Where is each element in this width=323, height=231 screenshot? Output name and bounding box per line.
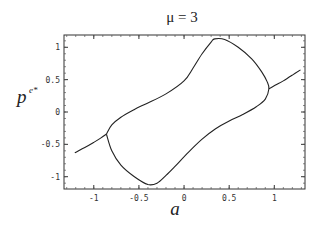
minor-ticks [64, 35, 305, 189]
data-series [75, 39, 301, 185]
y-tick-label: 0.5 [46, 76, 61, 85]
x-axis-ticks: -1-0.500.51 [89, 35, 277, 203]
y-tick-label: -1 [50, 173, 60, 182]
series-right-branch [269, 70, 301, 89]
x-tick-label: 0.5 [222, 194, 237, 203]
y-axis-label-superscript: e* [29, 85, 38, 95]
y-tick-label: -0.5 [41, 140, 60, 149]
y-axis-label: p e* [15, 85, 38, 107]
y-tick-label: 1 [55, 43, 60, 52]
chart-title: μ = 3 [166, 9, 198, 25]
y-axis-label-main: p [15, 86, 27, 107]
x-tick-label: 0 [182, 194, 187, 203]
y-tick-label: 0 [55, 108, 60, 117]
series-left-branch [75, 134, 107, 153]
x-tick-label: 1 [272, 194, 277, 203]
y-axis-ticks: -1-0.500.51 [41, 43, 305, 181]
x-tick-label: -1 [89, 194, 99, 203]
x-tick-label: -0.5 [129, 194, 148, 203]
x-axis-label: a [170, 198, 180, 219]
series-closed-loop [106, 39, 269, 185]
chart: μ = 3 p e* a -1-0.500.51 -1-0.500.51 [0, 0, 323, 231]
plot-frame [64, 35, 305, 189]
